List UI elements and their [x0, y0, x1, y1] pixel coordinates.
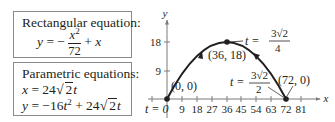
t-end-lhs: t =: [230, 75, 244, 89]
x-axis-label: x: [323, 92, 329, 104]
y-axis-label: y: [162, 7, 168, 19]
t-end-num: 3√2: [251, 69, 268, 81]
point-vertex: [224, 39, 230, 45]
t-end-den: 2: [256, 83, 262, 95]
x-tick-63: 63: [266, 103, 278, 115]
t-vertex-lhs: t =: [245, 34, 259, 48]
x-tick-labels: 9 18 27 36 45 54 63 72 81: [179, 103, 306, 115]
label-vertex: (36, 18): [208, 48, 246, 62]
x-tick-18: 18: [192, 103, 204, 115]
x-tick-45: 45: [236, 103, 248, 115]
label-origin: (0, 0): [171, 79, 197, 93]
y-tick-labels: 18 9: [150, 36, 162, 77]
end-leader-line-point: [287, 86, 293, 96]
x-tick-81: 81: [296, 103, 307, 115]
x-tick-27: 27: [207, 103, 219, 115]
x-tick-9: 9: [179, 103, 185, 115]
label-t0: t = 0: [145, 102, 168, 116]
y-tick-9: 9: [156, 65, 162, 77]
x-tick-36: 36: [222, 103, 234, 115]
y-tick-18: 18: [150, 36, 162, 48]
point-end: [283, 96, 289, 102]
x-tick-72: 72: [281, 103, 292, 115]
parabola-graph: 9 18 27 36 45 54 63 72 81 18 9 y x (0, 0…: [0, 0, 335, 122]
t-vertex-den: 4: [275, 42, 281, 54]
x-tick-54: 54: [251, 103, 263, 115]
point-origin: [164, 96, 170, 102]
vertex-leader-line: [229, 41, 243, 42]
label-end: (72, 0): [278, 73, 310, 87]
t-vertex-num: 3√2: [271, 27, 288, 39]
